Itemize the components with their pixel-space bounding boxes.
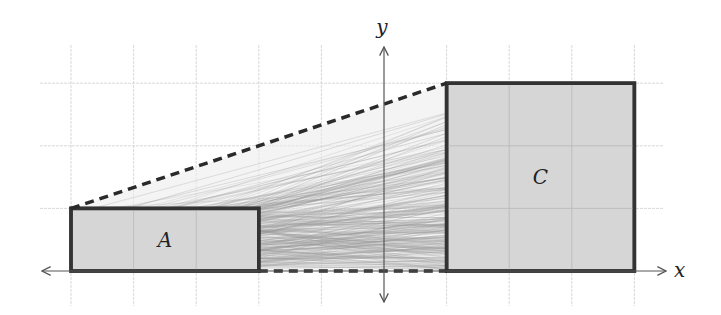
shape-label-c: C bbox=[533, 165, 548, 189]
x-axis-label: x bbox=[674, 258, 685, 282]
diagram-canvas: A C x y bbox=[0, 0, 721, 315]
y-axis-label: y bbox=[375, 15, 388, 39]
shape-label-a: A bbox=[156, 228, 172, 252]
